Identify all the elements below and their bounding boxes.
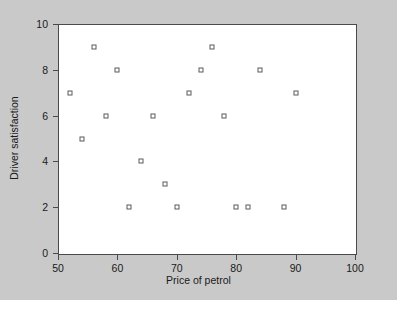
scatter-point	[186, 90, 191, 95]
y-axis-tick	[53, 116, 58, 117]
x-axis-title: Price of petrol	[0, 274, 397, 286]
scatter-point	[210, 44, 215, 49]
scatter-point	[91, 44, 96, 49]
x-axis-tick-label: 100	[346, 262, 364, 274]
y-axis-tick	[53, 24, 58, 25]
scatter-point	[115, 67, 120, 72]
x-axis-tick-label: 60	[112, 262, 124, 274]
x-axis-tick-label: 70	[171, 262, 183, 274]
x-axis-tick	[117, 255, 118, 260]
y-axis-title: Driver satisfaction	[8, 96, 20, 179]
scatter-point	[139, 159, 144, 164]
x-axis-tick-label: 80	[230, 262, 242, 274]
scatter-point	[174, 205, 179, 210]
scatter-point	[67, 90, 72, 95]
x-axis-tick-label: 90	[290, 262, 302, 274]
y-axis-tick-label: 0	[0, 247, 48, 259]
scatter-point	[79, 136, 84, 141]
y-axis-tick	[53, 161, 58, 162]
scatter-point	[103, 113, 108, 118]
x-axis-tick	[58, 255, 59, 260]
scatter-point	[257, 67, 262, 72]
x-axis-tick-label: 50	[52, 262, 64, 274]
x-axis-tick	[177, 255, 178, 260]
x-axis-tick	[355, 255, 356, 260]
scatter-point	[198, 67, 203, 72]
scatter-point	[127, 205, 132, 210]
plot-area	[58, 24, 357, 255]
y-axis-tick-label: 2	[0, 201, 48, 213]
y-axis-tick-label: 8	[0, 64, 48, 76]
y-axis-tick	[53, 253, 58, 254]
scatter-point	[281, 205, 286, 210]
chart-figure: 0246810 5060708090100 Driver satisfactio…	[0, 0, 397, 300]
scatter-point	[162, 182, 167, 187]
figure-bottom-margin	[0, 300, 397, 312]
scatter-point	[222, 113, 227, 118]
scatter-point	[234, 205, 239, 210]
x-axis-tick	[236, 255, 237, 260]
scatter-point	[151, 113, 156, 118]
y-axis-tick-label: 10	[0, 18, 48, 30]
y-axis-tick	[53, 207, 58, 208]
scatter-point	[246, 205, 251, 210]
y-axis-tick	[53, 70, 58, 71]
scatter-point	[293, 90, 298, 95]
x-axis-tick	[296, 255, 297, 260]
